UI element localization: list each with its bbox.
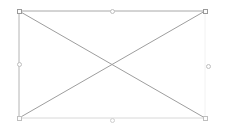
resize-handle-middle-left[interactable] [17, 62, 22, 67]
resize-handle-top-right[interactable] [203, 9, 208, 14]
image-placeholder-canvas [0, 0, 225, 136]
selection-bounding-box[interactable] [0, 0, 225, 136]
resize-handle-top-left[interactable] [17, 9, 22, 14]
resize-handle-bottom-right[interactable] [203, 116, 208, 121]
resize-handle-bottom-center[interactable] [110, 118, 115, 123]
resize-handle-middle-right[interactable] [206, 64, 211, 69]
resize-handle-top-center[interactable] [110, 9, 115, 14]
resize-handle-bottom-left[interactable] [17, 116, 22, 121]
